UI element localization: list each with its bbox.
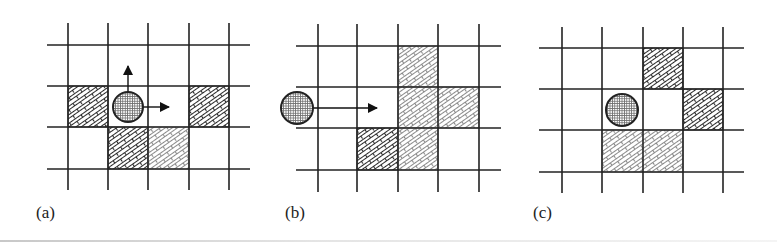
panel-label-b: (b) (285, 204, 305, 221)
panel-label-c: (c) (533, 204, 552, 221)
ball-icon (113, 92, 143, 122)
blocked-cell-dark (68, 86, 108, 127)
figure: (a) (b) (c) (0, 0, 777, 243)
panel-b (281, 24, 501, 192)
blocked-cell-dark (357, 128, 398, 170)
figure-canvas (0, 0, 777, 243)
blocked-cell-light (398, 128, 438, 170)
panel-a (47, 23, 250, 190)
blocked-cell-light (148, 127, 189, 169)
blocked-cell-dark (683, 89, 723, 130)
ball-icon (281, 92, 313, 124)
blocked-cell-dark (643, 48, 683, 89)
panel-label-a: (a) (36, 204, 55, 221)
ball-icon (606, 94, 638, 126)
bottom-divider (0, 240, 777, 242)
blocked-cell-dark (189, 86, 229, 127)
blocked-cell-light (398, 46, 438, 87)
blocked-cell-dark (108, 127, 148, 169)
panel-c (539, 27, 744, 193)
